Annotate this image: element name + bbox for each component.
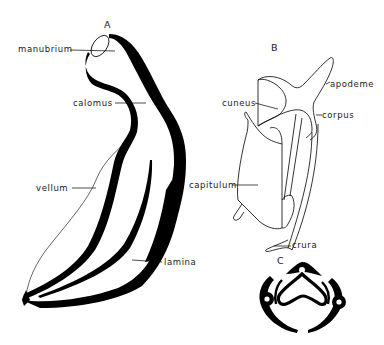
label-cuneus: cuneus [222,99,256,108]
figure-a-middle-stripe [38,160,152,298]
figure-c-inner-loop [278,274,326,304]
figure-b-inner-beam [270,128,282,144]
figure-b-structure [233,58,333,252]
figure-a-letter: A [104,20,111,30]
label-capitulum: capitulum [189,181,237,190]
label-crura: crura [292,241,317,250]
figure-b-capitulum [237,112,282,229]
figure-c-letter: C [277,256,284,266]
figure-a-structure [22,32,186,308]
label-calomus: calomus [73,99,113,108]
label-vellum: vellum [36,184,68,193]
label-manubrium: manubrium [18,45,73,54]
figure-b-spur [233,204,244,220]
figure-a-inner-band [22,52,138,300]
figure-b-corpus [258,110,312,138]
diagram-canvas: A B C manubrium calomus vellum lamina ap… [0,0,384,345]
figure-c-structure [259,262,346,333]
figure-b-shaft-2 [290,118,302,196]
figure-b-shaft-1 [284,114,296,200]
figure-b-apodeme [258,58,333,140]
label-apodeme: apodeme [330,80,374,89]
label-lamina: lamina [164,258,196,267]
figure-a-manubrium-opening [87,32,112,60]
figure-b-letter: B [271,43,278,53]
figure-b-shaft-3 [288,132,312,248]
figure-b-lower-plate [282,195,294,228]
figure-b-cuneus [258,79,286,126]
label-corpus: corpus [322,111,354,120]
